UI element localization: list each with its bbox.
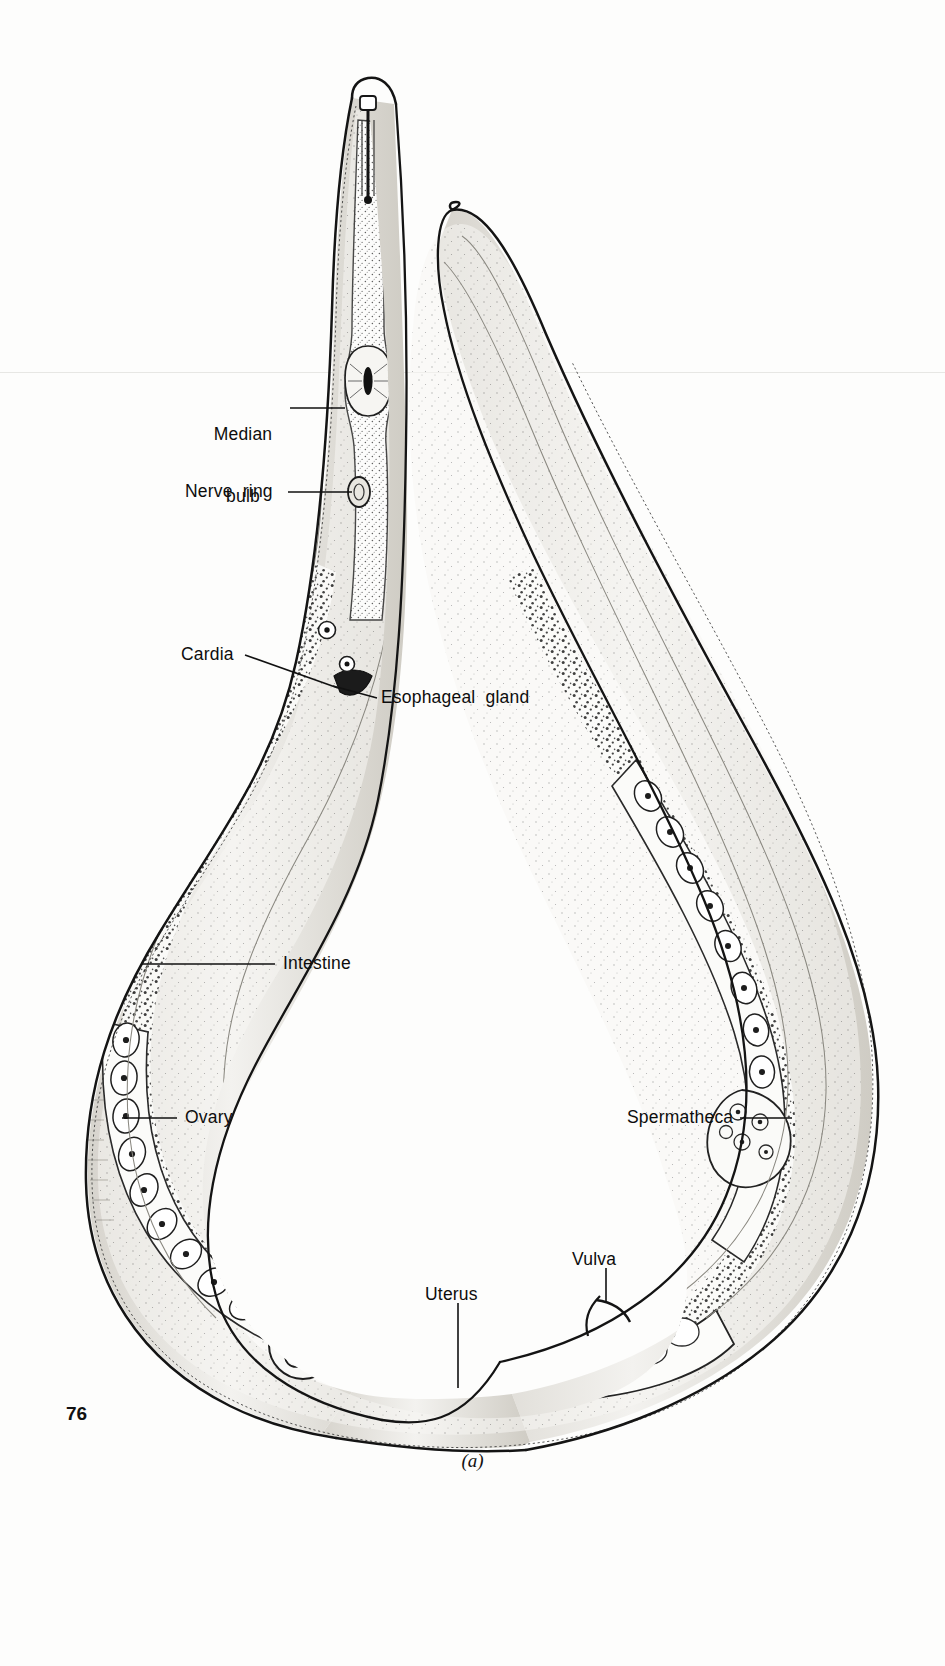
label-esophageal-gland: Esophageal gland bbox=[381, 687, 529, 708]
figure-caption: (a) bbox=[0, 1450, 945, 1472]
label-cardia: Cardia bbox=[181, 644, 234, 665]
label-ovary: Ovary bbox=[185, 1107, 233, 1128]
median-bulb-lumen bbox=[363, 367, 372, 395]
nematode-illustration bbox=[0, 0, 945, 1666]
label-median-bulb: Median bulb bbox=[193, 383, 293, 548]
label-vulva: Vulva bbox=[572, 1249, 616, 1270]
page-number: 76 bbox=[66, 1403, 87, 1425]
label-nerve-ring: Nerve ring bbox=[185, 481, 273, 502]
label-intestine: Intestine bbox=[283, 953, 351, 974]
internal-anatomy bbox=[86, 104, 861, 1435]
label-spermatheca: Spermatheca bbox=[627, 1107, 733, 1128]
embryo-cluster bbox=[269, 1311, 337, 1379]
label-uterus: Uterus bbox=[425, 1284, 478, 1305]
worm-body bbox=[86, 78, 878, 1452]
figure-plate: Median bulb Nerve ring Cardia Esophageal… bbox=[0, 0, 945, 1666]
